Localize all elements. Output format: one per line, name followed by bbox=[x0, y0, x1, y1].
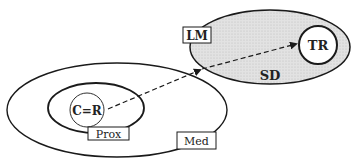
cr-node: C=R bbox=[70, 93, 104, 127]
lm-label-box: LM bbox=[183, 27, 211, 43]
cr-label: C=R bbox=[72, 104, 103, 118]
prox-label: Prox bbox=[96, 128, 122, 141]
diagram-canvas: C=R TR LM SD Prox Med bbox=[0, 0, 353, 162]
lm-label: LM bbox=[186, 29, 208, 43]
tr-node: TR bbox=[299, 26, 337, 64]
sd-label: SD bbox=[260, 68, 281, 83]
med-label-box: Med bbox=[177, 132, 216, 149]
prox-label-box: Prox bbox=[88, 127, 129, 141]
tr-label: TR bbox=[308, 38, 329, 53]
med-label: Med bbox=[184, 135, 209, 148]
